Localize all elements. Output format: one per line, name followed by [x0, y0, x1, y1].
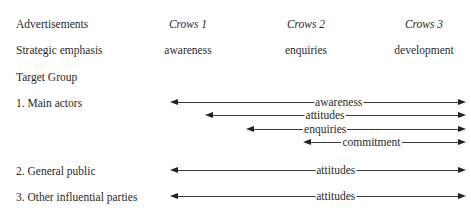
- arrow-label: attitudes: [315, 189, 356, 203]
- row-label-strategic-emphasis: Strategic emphasis: [16, 43, 103, 57]
- arrow-label: enquiries: [303, 122, 347, 136]
- double-arrow-enquiries: enquiries: [246, 122, 466, 136]
- emphasis-crows-3: development: [394, 43, 453, 57]
- double-arrow-attitudes: attitudes: [205, 108, 466, 122]
- arrow-label: commitment: [341, 135, 401, 149]
- group-label-general-public: 2. General public: [16, 164, 96, 178]
- arrow-label: attitudes: [315, 163, 356, 177]
- arrowhead-right-icon: [458, 99, 466, 105]
- arrowhead-right-icon: [458, 193, 466, 199]
- column-header-crows-2: Crows 2: [287, 17, 325, 31]
- arrow-label: attitudes: [305, 108, 346, 122]
- double-arrow-awareness: awareness: [170, 95, 466, 109]
- arrowhead-right-icon: [458, 112, 466, 118]
- column-header-crows-1: Crows 1: [169, 17, 207, 31]
- arrowhead-left-icon: [246, 126, 254, 132]
- double-arrow-attitudes-other-parties: attitudes: [170, 189, 466, 203]
- group-label-main-actors: 1. Main actors: [16, 96, 82, 110]
- arrow-line: [252, 129, 460, 130]
- arrowhead-left-icon: [170, 193, 178, 199]
- arrowhead-left-icon: [170, 167, 178, 173]
- double-arrow-commitment: commitment: [303, 135, 466, 149]
- group-label-other-influential-parties: 3. Other influential parties: [16, 190, 137, 204]
- arrowhead-left-icon: [205, 112, 213, 118]
- arrowhead-right-icon: [458, 139, 466, 145]
- double-arrow-attitudes-general-public: attitudes: [170, 163, 466, 177]
- row-label-target-group: Target Group: [16, 70, 77, 84]
- arrowhead-left-icon: [170, 99, 178, 105]
- arrow-label: awareness: [314, 95, 363, 109]
- arrowhead-right-icon: [458, 167, 466, 173]
- emphasis-crows-2: enquiries: [285, 43, 327, 57]
- arrowhead-left-icon: [303, 139, 311, 145]
- row-label-advertisements: Advertisements: [16, 17, 88, 31]
- column-header-crows-3: Crows 3: [405, 17, 443, 31]
- emphasis-crows-1: awareness: [164, 43, 211, 57]
- arrowhead-right-icon: [458, 126, 466, 132]
